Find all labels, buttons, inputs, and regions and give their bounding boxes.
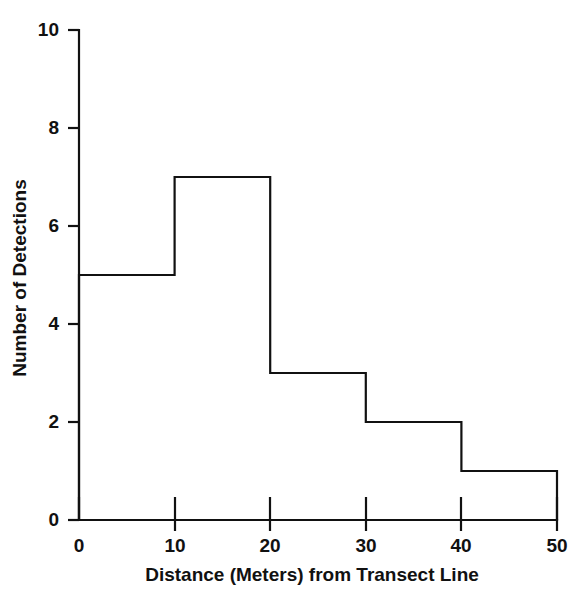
x-tick-label-40: 40 — [450, 535, 471, 556]
y-tick-label-8: 8 — [48, 117, 59, 138]
y-axis-title: Number of Detections — [9, 179, 30, 376]
bars-group — [79, 177, 557, 520]
y-tick-label-4: 4 — [48, 313, 59, 334]
x-tick-group — [79, 497, 557, 531]
chart-canvas: 10 8 6 4 2 0 0 10 20 30 40 50 Distance (… — [0, 0, 584, 603]
y-tick-label-6: 6 — [48, 215, 59, 236]
histogram-figure: 10 8 6 4 2 0 0 10 20 30 40 50 Distance (… — [0, 0, 584, 603]
x-tick-label-50: 50 — [546, 535, 567, 556]
y-tick-label-10: 10 — [38, 19, 59, 40]
x-tick-label-10: 10 — [164, 535, 185, 556]
x-tick-label-20: 20 — [259, 535, 280, 556]
y-tick-label-0: 0 — [48, 509, 59, 530]
x-tick-label-0: 0 — [74, 535, 85, 556]
y-tick-group — [68, 30, 79, 520]
histogram-outline — [79, 177, 557, 520]
x-axis-title: Distance (Meters) from Transect Line — [145, 564, 479, 585]
y-tick-label-2: 2 — [48, 411, 59, 432]
x-tick-label-30: 30 — [355, 535, 376, 556]
